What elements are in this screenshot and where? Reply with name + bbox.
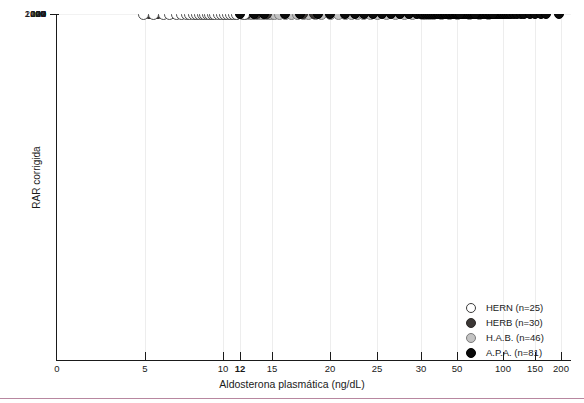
x-tick-label: 50 <box>437 363 477 374</box>
legend-label: H.A.B. (n=46) <box>486 330 544 345</box>
gridline-vertical <box>377 14 378 360</box>
legend-marker-herb-icon <box>466 318 476 328</box>
x-tick-mark <box>377 352 378 361</box>
x-axis-line <box>56 360 571 361</box>
legend-label: HERN (n=25) <box>486 300 543 315</box>
y-tick-label: 1 <box>2 9 46 19</box>
legend-item-hern: HERN (n=25) <box>466 300 582 315</box>
gridline-vertical <box>240 14 241 360</box>
gridline-vertical <box>145 14 146 360</box>
x-tick-label: 15 <box>252 363 292 374</box>
data-point-apa <box>554 14 564 19</box>
x-tick-mark <box>330 352 331 361</box>
x-tick-label: 200 <box>541 363 581 374</box>
y-axis-title: RAR corrigida <box>31 118 42 238</box>
x-tick-label: 5 <box>125 363 165 374</box>
x-tick-mark <box>272 352 273 361</box>
legend-label: HERB (n=30) <box>486 315 543 330</box>
footer-rule <box>0 398 584 399</box>
x-tick-label: 0 <box>37 363 77 374</box>
scatter-plot-figure: 2000100040020010040272010421 05101215202… <box>0 0 584 403</box>
legend-item-apa: A.P.A. (n=81) <box>466 345 582 360</box>
x-axis-title: Aldosterona plasmática (ng/dL) <box>0 378 584 390</box>
x-tick-label: 30 <box>401 363 441 374</box>
gridline-vertical <box>457 14 458 360</box>
x-tick-mark <box>145 352 146 361</box>
gridline-vertical <box>421 14 422 360</box>
x-tick-label: 25 <box>357 363 397 374</box>
x-tick-mark <box>240 352 241 361</box>
legend-marker-hern-icon <box>466 303 476 313</box>
gridline-vertical <box>330 14 331 360</box>
gridline-vertical <box>223 14 224 360</box>
y-axis-line <box>56 14 57 361</box>
gridline-vertical <box>272 14 273 360</box>
data-point-hern <box>138 14 149 20</box>
x-tick-mark <box>457 352 458 361</box>
legend-label: A.P.A. (n=81) <box>486 345 542 360</box>
y-tick-mark <box>50 14 59 15</box>
legend-marker-hab-icon <box>466 333 476 343</box>
legend-marker-apa-icon <box>466 348 476 358</box>
data-point-apa <box>541 14 551 19</box>
legend: HERN (n=25)HERB (n=30)H.A.B. (n=46)A.P.A… <box>466 300 582 360</box>
x-tick-mark <box>421 352 422 361</box>
legend-item-herb: HERB (n=30) <box>466 315 582 330</box>
x-tick-mark <box>223 352 224 361</box>
x-tick-label: 20 <box>310 363 350 374</box>
legend-item-hab: H.A.B. (n=46) <box>466 330 582 345</box>
